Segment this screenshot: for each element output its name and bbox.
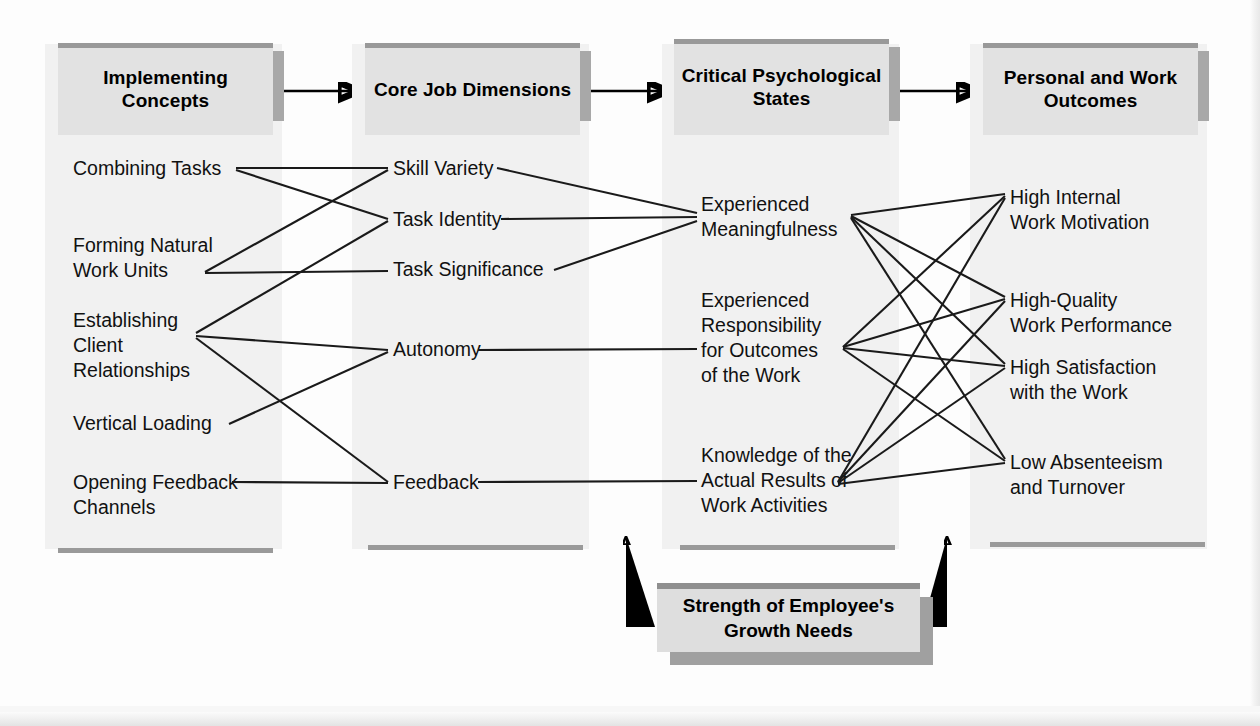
column-header-label: Implementing Concepts xyxy=(58,66,273,112)
column-footer-rule xyxy=(368,545,583,550)
page-edge-bottom xyxy=(0,712,1260,726)
moderator-box-strength-of-growth-needs[interactable]: Strength of Employee's Growth Needs xyxy=(657,583,920,652)
header-cap-bar xyxy=(365,43,580,48)
diagram-canvas: Implementing Concepts Core Job Dimension… xyxy=(0,0,1260,726)
column-header-label: Core Job Dimensions xyxy=(365,78,580,101)
page-edge-right xyxy=(1250,0,1260,726)
moderator-label: Strength of Employee's Growth Needs xyxy=(657,593,920,643)
item-task-identity[interactable]: Task Identity xyxy=(393,207,501,232)
item-autonomy[interactable]: Autonomy xyxy=(393,337,481,362)
arrow-moderator-to-psychological-states xyxy=(626,537,655,627)
header-cap-bar xyxy=(58,43,273,48)
header-cap-bar xyxy=(674,39,889,44)
item-forming-natural-work-units[interactable]: Forming Natural Work Units xyxy=(73,233,213,283)
item-low-absenteeism-and-turnover[interactable]: Low Absenteeism and Turnover xyxy=(1010,450,1163,500)
header-cap-bar xyxy=(983,43,1198,48)
header-drop-shadow xyxy=(1198,51,1209,121)
item-task-significance[interactable]: Task Significance xyxy=(393,257,544,282)
moderator-cap-bar xyxy=(657,583,920,589)
item-opening-feedback-channels[interactable]: Opening Feedback Channels xyxy=(73,470,238,520)
item-high-internal-work-motivation[interactable]: High Internal Work Motivation xyxy=(1010,185,1149,235)
item-high-satisfaction-with-the-work[interactable]: High Satisfaction with the Work xyxy=(1010,355,1156,405)
item-high-quality-work-performance[interactable]: High-Quality Work Performance xyxy=(1010,288,1172,338)
column-header-core-job-dimensions[interactable]: Core Job Dimensions xyxy=(365,43,580,135)
item-vertical-loading[interactable]: Vertical Loading xyxy=(73,411,212,436)
item-feedback[interactable]: Feedback xyxy=(393,470,479,495)
item-combining-tasks[interactable]: Combining Tasks xyxy=(73,156,221,181)
column-header-label: Critical Psychological States xyxy=(674,64,889,110)
item-experienced-meaningfulness[interactable]: Experienced Meaningfulness xyxy=(701,192,838,242)
item-knowledge-of-results[interactable]: Knowledge of the Actual Results of Work … xyxy=(701,443,852,518)
column-footer-rule xyxy=(680,545,895,550)
column-header-personal-and-work-outcomes[interactable]: Personal and Work Outcomes xyxy=(983,43,1198,135)
column-footer-rule xyxy=(58,548,273,553)
column-footer-rule xyxy=(990,542,1205,547)
item-skill-variety[interactable]: Skill Variety xyxy=(393,156,493,181)
column-header-critical-psychological-states[interactable]: Critical Psychological States xyxy=(674,39,889,135)
item-establishing-client-relationships[interactable]: Establishing Client Relationships xyxy=(73,308,190,383)
column-header-label: Personal and Work Outcomes xyxy=(983,66,1198,112)
header-drop-shadow xyxy=(889,47,900,121)
moderator-drop-shadow-bottom xyxy=(670,652,933,665)
column-header-implementing-concepts[interactable]: Implementing Concepts xyxy=(58,43,273,135)
header-drop-shadow xyxy=(580,51,591,121)
item-experienced-responsibility[interactable]: Experienced Responsibility for Outcomes … xyxy=(701,288,821,388)
header-drop-shadow xyxy=(273,51,284,121)
